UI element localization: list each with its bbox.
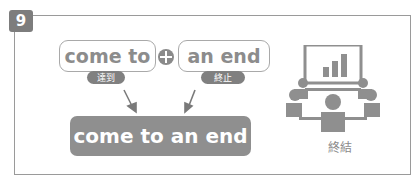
meeting-presentation-icon <box>283 45 383 135</box>
illustration-caption: 終結 <box>310 138 370 155</box>
result-phrase-box: come to an end <box>70 116 251 156</box>
